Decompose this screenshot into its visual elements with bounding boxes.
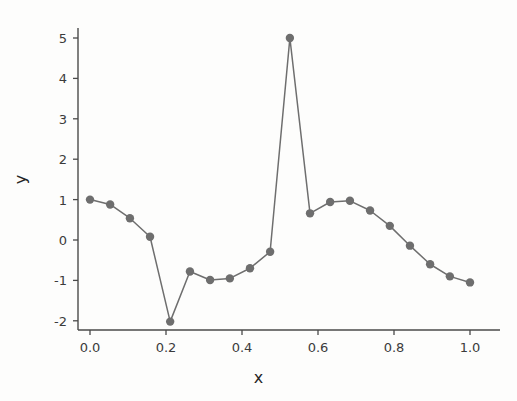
data-point-marker (246, 264, 254, 272)
x-tick-label: 1.0 (460, 340, 481, 355)
data-point-marker (186, 267, 194, 275)
chart-figure: 0.00.20.40.60.81.0543210-1-2 x y (0, 0, 517, 401)
x-tick-label: 0.8 (384, 340, 405, 355)
x-axis-label: x (0, 368, 517, 387)
data-point-marker (386, 222, 394, 230)
data-point-marker (146, 233, 154, 241)
data-point-marker (426, 260, 434, 268)
data-point-marker (166, 317, 174, 325)
y-tick-label: 3 (34, 111, 67, 126)
data-point-marker (226, 274, 234, 282)
data-point-marker (266, 248, 274, 256)
data-point-marker (366, 206, 374, 214)
data-point-marker (86, 195, 94, 203)
data-point-marker (106, 200, 114, 208)
y-tick-label: 5 (34, 31, 67, 46)
data-series-line (90, 38, 470, 322)
data-point-marker (466, 278, 474, 286)
y-axis-ticks (73, 38, 78, 321)
y-tick-label: 4 (34, 71, 67, 86)
y-axis-label: y (11, 175, 30, 184)
data-point-marker (326, 198, 334, 206)
data-point-marker (126, 214, 134, 222)
y-tick-label: 2 (34, 152, 67, 167)
data-point-marker (286, 34, 294, 42)
x-tick-label: 0.2 (156, 340, 177, 355)
x-tick-label: 0.4 (232, 340, 253, 355)
line-chart-plot (0, 0, 517, 401)
data-point-marker (306, 209, 314, 217)
data-point-marker (346, 197, 354, 205)
y-tick-label: 0 (34, 233, 67, 248)
data-point-marker (406, 241, 414, 249)
x-tick-label: 0.6 (308, 340, 329, 355)
data-point-marker (206, 276, 214, 284)
x-tick-label: 0.0 (80, 340, 101, 355)
y-tick-label: -2 (34, 313, 67, 328)
x-axis-ticks (90, 330, 470, 335)
data-point-marker (446, 272, 454, 280)
y-tick-label: -1 (34, 273, 67, 288)
y-tick-label: 1 (34, 192, 67, 207)
data-point-markers (86, 34, 474, 326)
